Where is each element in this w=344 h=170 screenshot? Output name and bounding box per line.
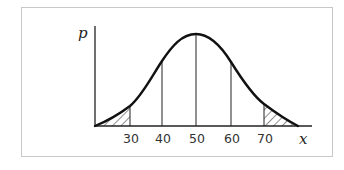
y-axis-label: p [78,24,88,42]
tick-50: 50 [189,131,205,146]
normal-distribution-diagram: p x 30 40 50 60 70 [0,0,344,170]
tick-30: 30 [123,131,139,146]
tick-70: 70 [257,131,273,146]
tick-40: 40 [155,131,171,146]
x-axis-label: x [299,130,308,148]
tick-60: 60 [224,131,240,146]
